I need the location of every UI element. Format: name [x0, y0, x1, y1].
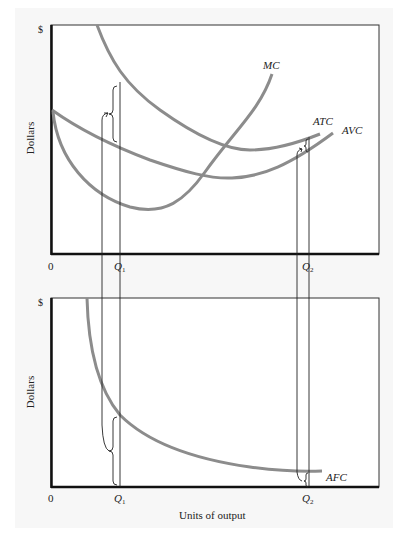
top-dollar-sign: $: [38, 25, 43, 35]
q2-subscript: 2: [310, 266, 314, 274]
bottom-panel: [51, 280, 379, 488]
q1-letter: Q: [114, 260, 122, 272]
afc-label: AFC: [326, 472, 347, 483]
q2-letter: Q: [302, 492, 310, 504]
mc-label: MC: [263, 60, 280, 71]
bottom-q1-label: Q1: [114, 493, 125, 506]
bottom-dollar-sign: $: [38, 298, 43, 308]
bottom-origin-label: 0: [48, 493, 54, 504]
q1-subscript: 1: [122, 498, 126, 506]
top-y-axis-label: Dollars: [24, 122, 36, 154]
cost-curves-chart: [0, 0, 406, 548]
top-q1-label: Q1: [114, 261, 125, 274]
q2-letter: Q: [302, 260, 310, 272]
bottom-plot-frame: [51, 298, 379, 487]
top-origin-label: 0: [48, 261, 54, 272]
bottom-y-axis-label: Dollars: [24, 376, 36, 408]
avc-label: AVC: [342, 125, 362, 136]
top-panel: [51, 25, 379, 290]
atc-label: ATC: [313, 116, 333, 127]
x-axis-label: Units of output: [179, 510, 246, 521]
q2-subscript: 2: [310, 498, 314, 506]
q1-letter: Q: [114, 492, 122, 504]
q1-subscript: 1: [122, 266, 126, 274]
bottom-q2-label: Q2: [302, 493, 313, 506]
top-q2-label: Q2: [302, 261, 313, 274]
